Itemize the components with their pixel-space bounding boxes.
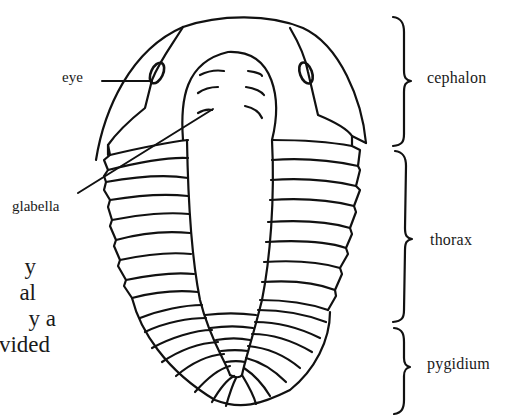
eye-label: eye [62, 70, 83, 85]
body-text-line: al [0, 280, 36, 306]
cephalon-brace [393, 17, 411, 146]
trilobite-diagram [0, 0, 509, 416]
glabella-outline [182, 52, 276, 140]
cropped-body-text: y al y a vided [0, 254, 56, 358]
pygidium-brace [394, 328, 410, 414]
thorax-segments-left [104, 140, 198, 298]
free-cheek-right [290, 28, 366, 143]
cephalon-outline [96, 17, 366, 160]
body-text-line: vided [0, 332, 50, 358]
thorax-label: thorax [430, 232, 472, 248]
glabella-label: glabella [12, 199, 59, 214]
pygidium-label: pygidium [427, 356, 490, 372]
body-text-line: y a [0, 306, 56, 332]
thorax-brace [393, 151, 412, 322]
cephalon-label: cephalon [427, 70, 486, 86]
body-text-line: y [0, 254, 36, 280]
eye-right [297, 61, 316, 86]
thorax-segments-right [260, 136, 360, 310]
